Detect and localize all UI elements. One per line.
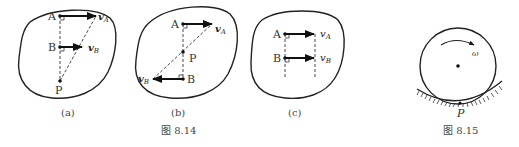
rotation-arrow-icon (441, 41, 474, 46)
figure-caption-8-15: 图 8.15 (443, 125, 478, 136)
label-P-contact: P (456, 107, 465, 120)
label-A-c: A (272, 28, 282, 41)
label-A-b: A (170, 18, 180, 31)
panel-b: A P B vA vB (b) 图 8.14 (136, 7, 238, 136)
label-vB-b: vB (138, 73, 149, 86)
omega-label: ω (472, 49, 479, 58)
point-P-a (58, 79, 62, 83)
label-P-b: P (189, 52, 197, 65)
point-B-a (58, 45, 62, 49)
contact-point-P (459, 102, 462, 105)
panel-label-b: (b) (171, 107, 185, 118)
label-B-a: B (48, 41, 56, 54)
label-vA-b: vA (215, 23, 226, 36)
label-vB-c: vB (320, 52, 331, 65)
label-vA-c: vA (320, 28, 331, 41)
label-vB-a: vB (88, 42, 99, 55)
panel-label-a: (a) (61, 107, 75, 118)
point-A-b (181, 22, 185, 26)
point-B-c (283, 56, 287, 60)
rigid-body-outline-a (19, 10, 116, 98)
figure-8-15: ω P 图 8.15 (417, 28, 502, 136)
point-A-a (58, 14, 62, 18)
point-B-b (181, 77, 185, 81)
label-P-a: P (55, 84, 63, 97)
point-A-c (283, 32, 287, 36)
panel-c: A B vA vB (c) (251, 11, 344, 118)
label-B-b: B (187, 73, 195, 86)
label-vA-a: vA (98, 11, 109, 24)
rigid-body-outline-c (251, 11, 344, 98)
panel-label-c: (c) (288, 107, 302, 118)
point-P-b (181, 50, 185, 54)
label-B-c: B (273, 52, 281, 65)
panel-a: A B P vA vB (a) (19, 10, 116, 118)
label-A-a: A (47, 10, 57, 23)
figure-canvas: A B P vA vB (a) A P B vA vB (b) 图 8.14 (0, 0, 519, 147)
wheel-center (456, 64, 460, 68)
figure-caption-8-14: 图 8.14 (161, 125, 196, 136)
